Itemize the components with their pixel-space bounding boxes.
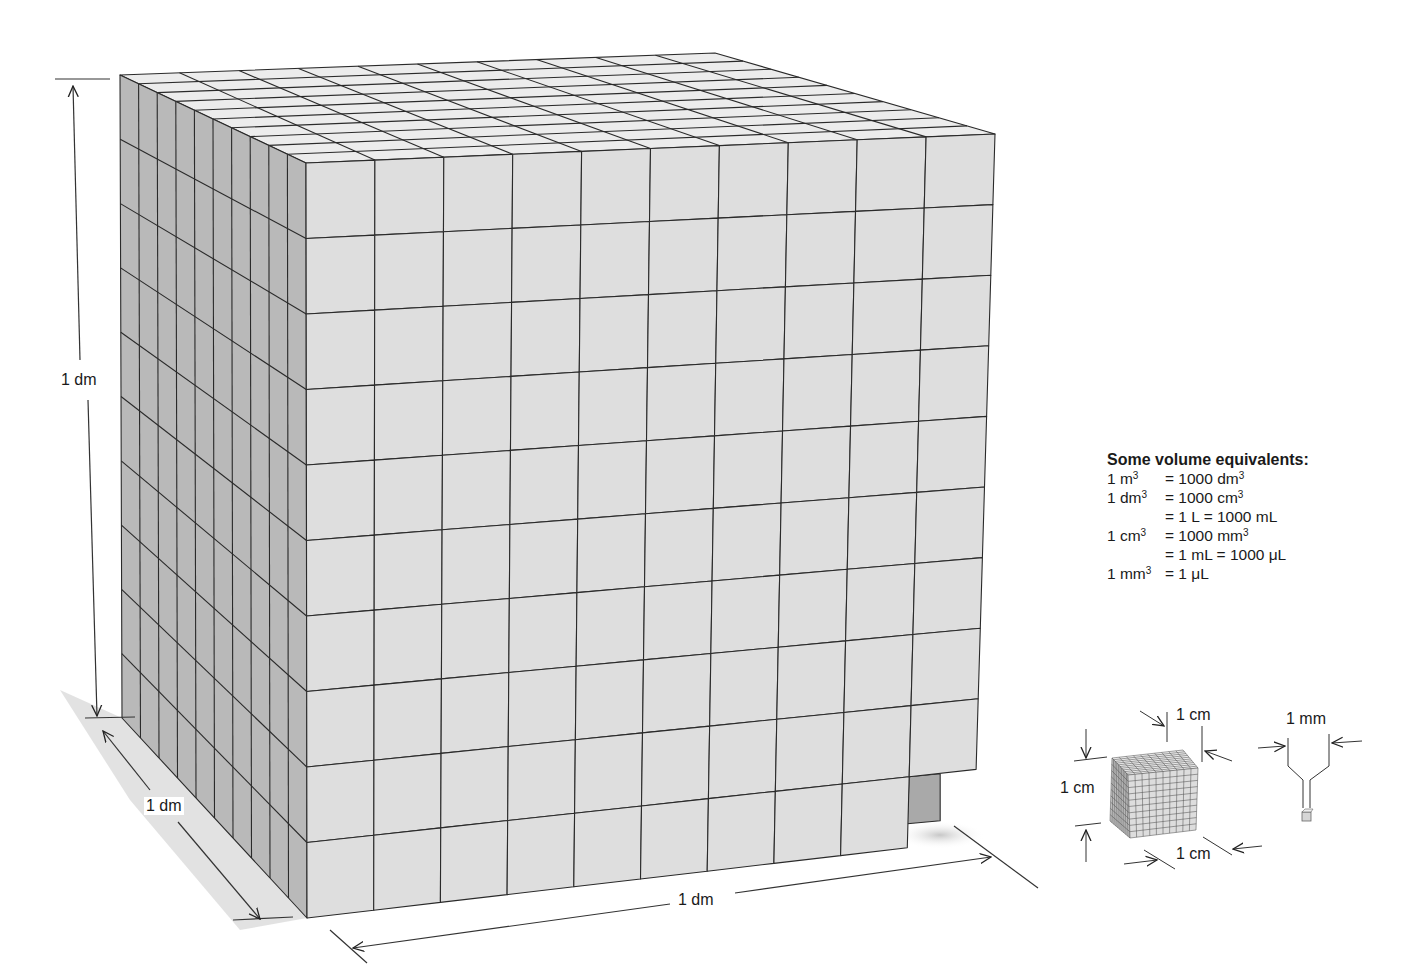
legend-row-rhs: = 1000 cm3 xyxy=(1165,488,1243,507)
legend-row-rhs: = 1 μL xyxy=(1165,564,1209,583)
width-label-small-cube: 1 cm xyxy=(1174,845,1213,863)
height-label-big-cube: 1 dm xyxy=(59,371,99,389)
volume-equivalents-legend: Some volume equivalents: 1 m3= 1000 dm31… xyxy=(1107,450,1309,583)
tiny-cube-1mm xyxy=(1258,734,1362,821)
legend-row-lhs: 1 cm3 xyxy=(1107,526,1165,545)
legend-row-lhs: 1 mm3 xyxy=(1107,564,1165,583)
legend-row-rhs: = 1 L = 1000 mL xyxy=(1165,507,1277,526)
depth-label-small-cube: 1 cm xyxy=(1174,706,1213,724)
legend-row: 1 cm3= 1000 mm3 xyxy=(1107,526,1309,545)
width-label-big-cube: 1 dm xyxy=(676,891,716,909)
legend-row-rhs: = 1000 dm3 xyxy=(1165,469,1244,488)
big-cube-1dm xyxy=(120,53,995,918)
tiny-cube-label: 1 mm xyxy=(1284,710,1328,728)
legend-row: = 1 mL = 1000 μL xyxy=(1107,545,1309,564)
legend-rows: 1 m3= 1000 dm31 dm3= 1000 cm3= 1 L = 100… xyxy=(1107,469,1309,583)
small-cube-1cm xyxy=(1110,750,1198,838)
legend-row-lhs: 1 m3 xyxy=(1107,469,1165,488)
big-cube-front-face xyxy=(306,134,995,918)
legend-row: 1 mm3= 1 μL xyxy=(1107,564,1309,583)
height-label-small-cube: 1 cm xyxy=(1058,779,1097,797)
depth-label-big-cube: 1 dm xyxy=(144,797,184,815)
legend-row-lhs xyxy=(1107,507,1165,526)
missing-block-side xyxy=(907,774,940,824)
legend-title: Some volume equivalents: xyxy=(1107,450,1309,469)
legend-row: = 1 L = 1000 mL xyxy=(1107,507,1309,526)
legend-row-rhs: = 1 mL = 1000 μL xyxy=(1165,545,1286,564)
legend-row: 1 dm3= 1000 cm3 xyxy=(1107,488,1309,507)
legend-row: 1 m3= 1000 dm3 xyxy=(1107,469,1309,488)
legend-row-lhs xyxy=(1107,545,1165,564)
legend-row-rhs: = 1000 mm3 xyxy=(1165,526,1249,545)
legend-row-lhs: 1 dm3 xyxy=(1107,488,1165,507)
